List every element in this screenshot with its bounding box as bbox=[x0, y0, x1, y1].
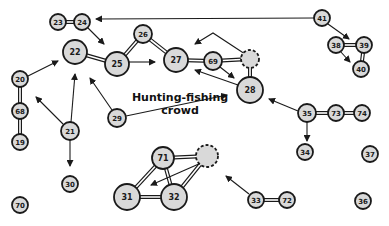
node-71: 71 bbox=[152, 147, 174, 169]
node-29: 29 bbox=[108, 109, 126, 127]
node-unnamed-dashed bbox=[241, 50, 259, 68]
node-69: 69 bbox=[204, 52, 222, 70]
node-73: 73 bbox=[328, 105, 344, 121]
node-35: 35 bbox=[298, 104, 316, 122]
svg-text:29: 29 bbox=[112, 115, 122, 123]
node-33: 33 bbox=[248, 192, 264, 208]
svg-text:31: 31 bbox=[121, 193, 133, 202]
svg-text:73: 73 bbox=[331, 110, 341, 118]
arrow-14 bbox=[269, 99, 298, 111]
arrow-0 bbox=[96, 18, 314, 19]
node-34: 34 bbox=[297, 144, 313, 160]
arrow-12 bbox=[220, 67, 234, 78]
svg-text:70: 70 bbox=[15, 202, 25, 210]
node-39: 39 bbox=[356, 37, 372, 53]
svg-text:69: 69 bbox=[208, 58, 218, 66]
svg-text:36: 36 bbox=[358, 198, 368, 206]
svg-text:25: 25 bbox=[111, 60, 123, 69]
node-40: 40 bbox=[353, 61, 369, 77]
arrow-11 bbox=[195, 33, 245, 54]
svg-text:26: 26 bbox=[138, 31, 148, 39]
sociogram-diagram: 2324413839402225262769282068192129307035… bbox=[0, 0, 389, 226]
arrow-9 bbox=[90, 78, 112, 110]
svg-text:33: 33 bbox=[251, 197, 261, 205]
svg-text:35: 35 bbox=[302, 110, 312, 118]
svg-text:34: 34 bbox=[300, 149, 310, 157]
group-label-line-1: Hunting-fishing bbox=[132, 91, 228, 104]
svg-text:41: 41 bbox=[317, 15, 327, 23]
node-24: 24 bbox=[74, 14, 90, 30]
node-74: 74 bbox=[354, 105, 370, 121]
svg-text:38: 38 bbox=[331, 42, 341, 50]
node-31: 31 bbox=[114, 184, 140, 210]
node-68: 68 bbox=[12, 103, 28, 119]
node-72: 72 bbox=[279, 192, 295, 208]
svg-text:72: 72 bbox=[282, 197, 292, 205]
node-36: 36 bbox=[355, 193, 371, 209]
svg-text:23: 23 bbox=[53, 19, 63, 27]
svg-text:37: 37 bbox=[365, 151, 375, 159]
arrow-3 bbox=[340, 51, 350, 62]
svg-text:28: 28 bbox=[244, 86, 256, 95]
node-22: 22 bbox=[63, 40, 87, 64]
node-20: 20 bbox=[12, 71, 28, 87]
node-30: 30 bbox=[62, 176, 78, 192]
svg-text:21: 21 bbox=[65, 128, 75, 136]
node-38: 38 bbox=[328, 37, 344, 53]
node-23: 23 bbox=[50, 14, 66, 30]
node-70: 70 bbox=[12, 197, 28, 213]
node-unnamed-dashed bbox=[196, 145, 218, 167]
node-25: 25 bbox=[105, 52, 129, 76]
svg-text:71: 71 bbox=[157, 154, 169, 163]
svg-text:74: 74 bbox=[357, 110, 367, 118]
svg-text:20: 20 bbox=[15, 76, 25, 84]
arrow-13 bbox=[195, 70, 238, 85]
svg-text:19: 19 bbox=[15, 139, 25, 147]
svg-text:40: 40 bbox=[356, 66, 366, 74]
node-37: 37 bbox=[362, 146, 378, 162]
svg-text:22: 22 bbox=[69, 48, 80, 57]
svg-text:68: 68 bbox=[15, 108, 25, 116]
group-label-line-2: crowd bbox=[161, 104, 199, 117]
node-26: 26 bbox=[134, 25, 152, 43]
arrow-17 bbox=[226, 176, 249, 194]
svg-text:24: 24 bbox=[77, 19, 87, 27]
svg-text:27: 27 bbox=[170, 56, 181, 65]
arrow-7 bbox=[71, 74, 75, 122]
node-27: 27 bbox=[164, 48, 188, 72]
arrow-1 bbox=[88, 28, 104, 44]
arrow-5 bbox=[28, 61, 58, 76]
node-41: 41 bbox=[314, 10, 330, 26]
node-19: 19 bbox=[12, 134, 28, 150]
node-21: 21 bbox=[61, 122, 79, 140]
svg-text:30: 30 bbox=[65, 181, 75, 189]
svg-text:39: 39 bbox=[359, 42, 369, 50]
node-28: 28 bbox=[237, 77, 263, 103]
node-32: 32 bbox=[161, 184, 187, 210]
svg-text:32: 32 bbox=[168, 193, 179, 202]
arrow-6 bbox=[36, 97, 63, 124]
